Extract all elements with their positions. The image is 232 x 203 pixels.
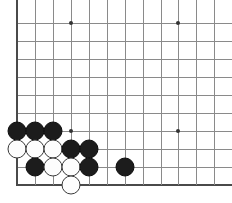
grid-line-vertical-8 (161, 0, 162, 185)
black-stone-a1[interactable] (8, 122, 27, 141)
white-stone-b1[interactable] (8, 140, 27, 159)
grid-line-vertical-7 (143, 0, 144, 185)
black-stone-a2[interactable] (26, 122, 45, 141)
white-stone-d4[interactable] (62, 176, 81, 195)
go-board[interactable] (0, 0, 232, 203)
black-stone-b5[interactable] (80, 140, 99, 159)
hoshi-top-left-star-point-icon (69, 21, 73, 25)
hoshi-top-right-star-point-icon (176, 21, 180, 25)
white-stone-c4[interactable] (62, 158, 81, 177)
grid-line-vertical-9 (178, 0, 179, 185)
black-stone-b4[interactable] (62, 140, 81, 159)
black-stone-c5[interactable] (80, 158, 99, 177)
hoshi-bottom-right-star-point-icon (176, 129, 180, 133)
black-stone-a3[interactable] (44, 122, 63, 141)
hoshi-bottom-left-star-point-icon (69, 129, 73, 133)
board-layers (0, 0, 232, 203)
grid-line-vertical-11 (214, 0, 215, 185)
black-stone-c7[interactable] (116, 158, 135, 177)
black-stone-c2[interactable] (26, 158, 45, 177)
grid-line-vertical-5 (107, 0, 108, 185)
white-stone-b3[interactable] (44, 140, 63, 159)
white-stone-c3[interactable] (44, 158, 63, 177)
white-stone-b2[interactable] (26, 140, 45, 159)
grid-line-vertical-10 (196, 0, 197, 185)
